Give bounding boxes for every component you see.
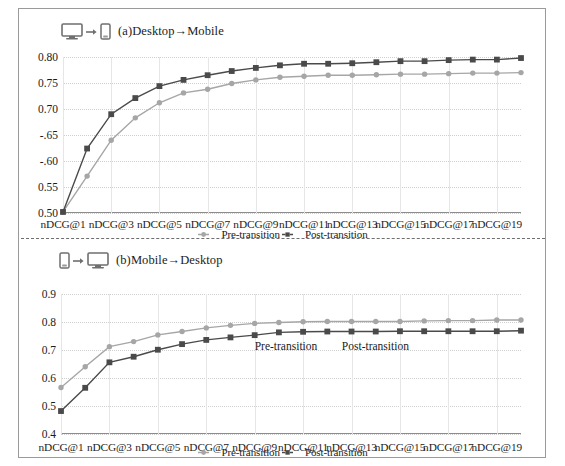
data-point-marker (494, 328, 500, 334)
data-point-marker (253, 65, 259, 71)
data-point-marker (398, 58, 404, 64)
y-axis-tick-label: -.65 (40, 129, 58, 141)
series-line-pre-transition (61, 320, 521, 387)
panel-b-legend: Pre-transition Post-transition (19, 446, 547, 458)
data-point-marker (325, 73, 330, 78)
data-point-marker (179, 341, 185, 347)
series-layer (61, 294, 521, 434)
y-axis-tick-label: -.60 (40, 155, 58, 167)
data-point-marker (422, 58, 428, 64)
data-point-marker (82, 385, 88, 391)
data-point-marker (157, 100, 162, 105)
gridline-horizontal (61, 434, 521, 435)
data-point-marker (229, 81, 234, 86)
legend-label-post-transition: Post-transition (305, 228, 368, 240)
data-point-marker (470, 70, 475, 75)
legend-item-post-transition: Post-transition (282, 228, 368, 240)
data-point-marker (445, 328, 451, 334)
desktop-monitor-icon (61, 23, 83, 40)
data-point-marker (301, 61, 307, 67)
data-point-marker (253, 77, 258, 82)
data-point-marker (181, 77, 187, 83)
data-point-marker (205, 87, 210, 92)
data-point-marker (300, 329, 306, 335)
data-point-marker (58, 385, 63, 390)
data-point-marker (277, 62, 283, 68)
figure-container: (a)Desktop→Mobile 0.500.55-.60-.650.700.… (18, 8, 546, 458)
gridline-horizontal (63, 213, 521, 214)
data-point-marker (446, 318, 451, 323)
y-axis-tick-label: 0.6 (42, 372, 56, 384)
y-axis-tick-label: 0.5 (42, 400, 56, 412)
data-point-marker (58, 408, 64, 414)
y-axis-tick-label: 0.80 (38, 51, 58, 63)
data-point-marker (84, 173, 89, 178)
data-point-marker (60, 209, 66, 215)
data-point-marker (181, 90, 186, 95)
data-point-marker (109, 138, 114, 143)
data-point-marker (494, 70, 499, 75)
y-axis-tick-label: 0.4 (42, 428, 56, 440)
data-point-marker (228, 335, 234, 341)
data-point-marker (324, 329, 330, 335)
legend-item-post-transition: Post-transition (282, 446, 368, 458)
data-point-marker (350, 73, 355, 78)
data-point-marker (204, 325, 209, 330)
legend-item-pre-transition: Pre-transition (198, 446, 279, 458)
desktop-monitor-icon (87, 252, 109, 269)
data-point-marker (252, 321, 257, 326)
data-point-marker (349, 329, 355, 335)
data-point-marker (132, 95, 138, 101)
data-point-marker (422, 71, 427, 76)
data-point-marker (398, 71, 403, 76)
data-point-marker (518, 70, 523, 75)
data-point-marker (494, 317, 499, 322)
data-point-marker (157, 83, 163, 89)
data-point-marker (205, 72, 211, 78)
data-point-marker (107, 344, 112, 349)
y-axis-tick-label: 0.9 (42, 288, 56, 300)
panel-a-plot-area: 0.500.55-.60-.650.700.750.80nDCG@1nDCG@3… (63, 57, 521, 213)
data-point-marker (374, 72, 379, 77)
mobile-phone-icon (59, 252, 70, 269)
data-point-marker (228, 323, 233, 328)
data-point-marker (133, 115, 138, 120)
data-point-marker (518, 55, 524, 61)
data-point-marker (131, 339, 136, 344)
legend-label-pre-transition: Pre-transition (221, 228, 279, 240)
data-point-marker (83, 364, 88, 369)
data-point-marker (470, 57, 476, 63)
data-point-marker (229, 68, 235, 74)
data-point-marker (84, 146, 90, 152)
data-point-marker (373, 319, 378, 324)
data-point-marker (349, 60, 355, 66)
data-point-marker (446, 71, 451, 76)
legend-marker-circle-icon (198, 448, 220, 457)
panel-a-header: (a)Desktop→Mobile (61, 23, 224, 40)
legend-marker-circle-icon (198, 230, 220, 239)
data-point-marker (446, 57, 452, 63)
data-point-marker (276, 320, 281, 325)
legend-item-pre-transition: Pre-transition (198, 228, 279, 240)
data-point-marker (470, 318, 475, 323)
data-point-marker (325, 61, 331, 67)
data-point-marker (397, 319, 402, 324)
data-point-marker (276, 329, 282, 335)
legend-marker-square-icon (282, 448, 304, 457)
data-point-marker (349, 319, 354, 324)
data-point-marker (518, 317, 523, 322)
legend-label-post-transition: Post-transition (305, 446, 368, 458)
data-point-marker (252, 332, 258, 338)
panel-b-plot-area: 0.40.50.60.70.80.9nDCG@1nDCG@3nDCG@5nDCG… (61, 294, 521, 434)
data-point-marker (494, 57, 500, 63)
data-point-marker (325, 319, 330, 324)
arrow-right-icon (86, 27, 97, 37)
mobile-phone-icon (100, 23, 111, 40)
data-point-marker (300, 319, 305, 324)
y-axis-tick-label: 0.8 (42, 316, 56, 328)
data-point-marker (301, 74, 306, 79)
series-line-post-transition (63, 58, 521, 212)
chart-panel-desktop-to-mobile: (a)Desktop→Mobile 0.500.55-.60-.650.700.… (19, 9, 547, 238)
data-point-marker (179, 329, 184, 334)
legend-label-pre-transition: Pre-transition (221, 446, 279, 458)
